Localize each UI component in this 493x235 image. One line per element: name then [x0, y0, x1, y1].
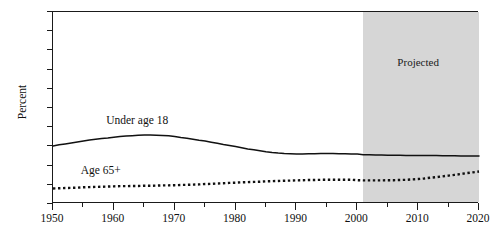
x-tick-label: 1990 — [284, 212, 307, 224]
y-tick-mark — [47, 88, 52, 89]
x-tick-mark — [235, 203, 236, 210]
x-tick-label: 2010 — [406, 212, 429, 224]
x-tick-mark — [356, 203, 357, 210]
series-label-1: Age 65+ — [81, 164, 121, 176]
population-age-share-chart: Percent Projected 0102030405060708090100… — [0, 0, 493, 235]
x-tick-mark — [265, 203, 266, 207]
x-tick-mark — [82, 203, 83, 207]
x-tick-mark — [174, 203, 175, 210]
y-tick-mark — [47, 69, 52, 70]
y-tick-mark — [47, 107, 52, 108]
y-tick-mark — [47, 11, 52, 12]
x-tick-mark — [143, 203, 144, 207]
x-tick-label: 1970 — [162, 212, 185, 224]
series-line-0 — [53, 135, 479, 156]
x-tick-label: 2020 — [467, 212, 490, 224]
x-tick-label: 1960 — [101, 212, 124, 224]
y-tick-mark — [47, 165, 52, 166]
x-tick-mark — [295, 203, 296, 210]
y-tick-mark — [47, 49, 52, 50]
x-tick-label: 2000 — [345, 212, 368, 224]
y-tick-mark — [47, 145, 52, 146]
x-tick-mark — [52, 203, 53, 210]
y-tick-mark — [47, 30, 52, 31]
x-tick-mark — [204, 203, 205, 207]
x-tick-mark — [387, 203, 388, 207]
x-tick-mark — [478, 203, 479, 210]
y-tick-mark — [47, 184, 52, 185]
x-tick-label: 1950 — [41, 212, 64, 224]
y-axis-label: Percent — [16, 62, 28, 142]
x-tick-mark — [113, 203, 114, 210]
x-tick-mark — [326, 203, 327, 207]
series-label-0: Under age 18 — [106, 114, 168, 126]
y-tick-mark — [47, 126, 52, 127]
x-tick-mark — [417, 203, 418, 210]
x-tick-mark — [448, 203, 449, 207]
x-tick-label: 1980 — [223, 212, 246, 224]
